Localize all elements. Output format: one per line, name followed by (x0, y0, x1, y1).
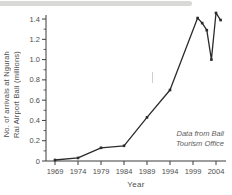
data-point-marker (100, 147, 103, 150)
y-tick-label: 0.2 (30, 136, 40, 145)
x-tick-label: 1974 (70, 167, 87, 176)
x-tick-label: 1984 (116, 167, 133, 176)
data-point-marker (210, 58, 213, 61)
data-point-marker (219, 19, 222, 22)
y-tick-label: 0.6 (30, 96, 40, 105)
y-tick-label: 0.8 (30, 75, 40, 84)
y-tick-label: 0.4 (30, 116, 40, 125)
data-point-marker (201, 22, 204, 25)
scanned-chart-page: 00.20.40.60.81.01.21.4196919741979198419… (0, 0, 232, 195)
y-tick-label: 1.4 (30, 15, 40, 24)
source-annotation-line2: Tourism Office (176, 139, 224, 149)
data-point-marker (206, 29, 209, 32)
x-tick-label: 1989 (139, 167, 156, 176)
x-tick-label: 1999 (185, 167, 202, 176)
x-tick-label: 1969 (47, 167, 64, 176)
y-axis-title: No. of arrivals at Ngurah Rai Airport Ba… (2, 22, 21, 167)
data-point-marker (77, 157, 80, 160)
scan-mark-artifact (152, 72, 153, 83)
y-tick-label: 1.2 (30, 35, 40, 44)
x-axis-title: Year (46, 180, 226, 189)
y-axis-title-line1: No. of arrivals at Ngurah (2, 51, 11, 137)
data-point-marker (123, 144, 126, 147)
source-annotation: Data from Bali Tourism Office (176, 129, 224, 149)
data-point-marker (169, 89, 172, 92)
y-axis-title-line2: Rai Airport Bali (millions) (12, 51, 21, 138)
y-tick-label: 0 (36, 157, 40, 166)
line-chart: 00.20.40.60.81.01.21.4196919741979198419… (0, 0, 232, 195)
x-tick-label: 1979 (93, 167, 110, 176)
data-point-marker (215, 12, 218, 15)
source-annotation-line1: Data from Bali (176, 129, 224, 139)
y-tick-label: 1.0 (30, 55, 40, 64)
data-point-marker (196, 17, 199, 20)
data-point-marker (54, 159, 57, 162)
x-tick-label: 2004 (208, 167, 225, 176)
data-point-marker (146, 116, 149, 119)
x-tick-label: 1994 (162, 167, 179, 176)
